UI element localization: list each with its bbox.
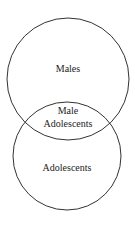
males-label: Males	[56, 63, 81, 74]
adolescents-label: Adolescents	[43, 162, 92, 173]
intersection-label-line1: Male	[58, 105, 79, 116]
venn-diagram: Males Male Adolescents Adolescents	[0, 0, 135, 227]
intersection-label-line2: Adolescents	[44, 118, 93, 129]
